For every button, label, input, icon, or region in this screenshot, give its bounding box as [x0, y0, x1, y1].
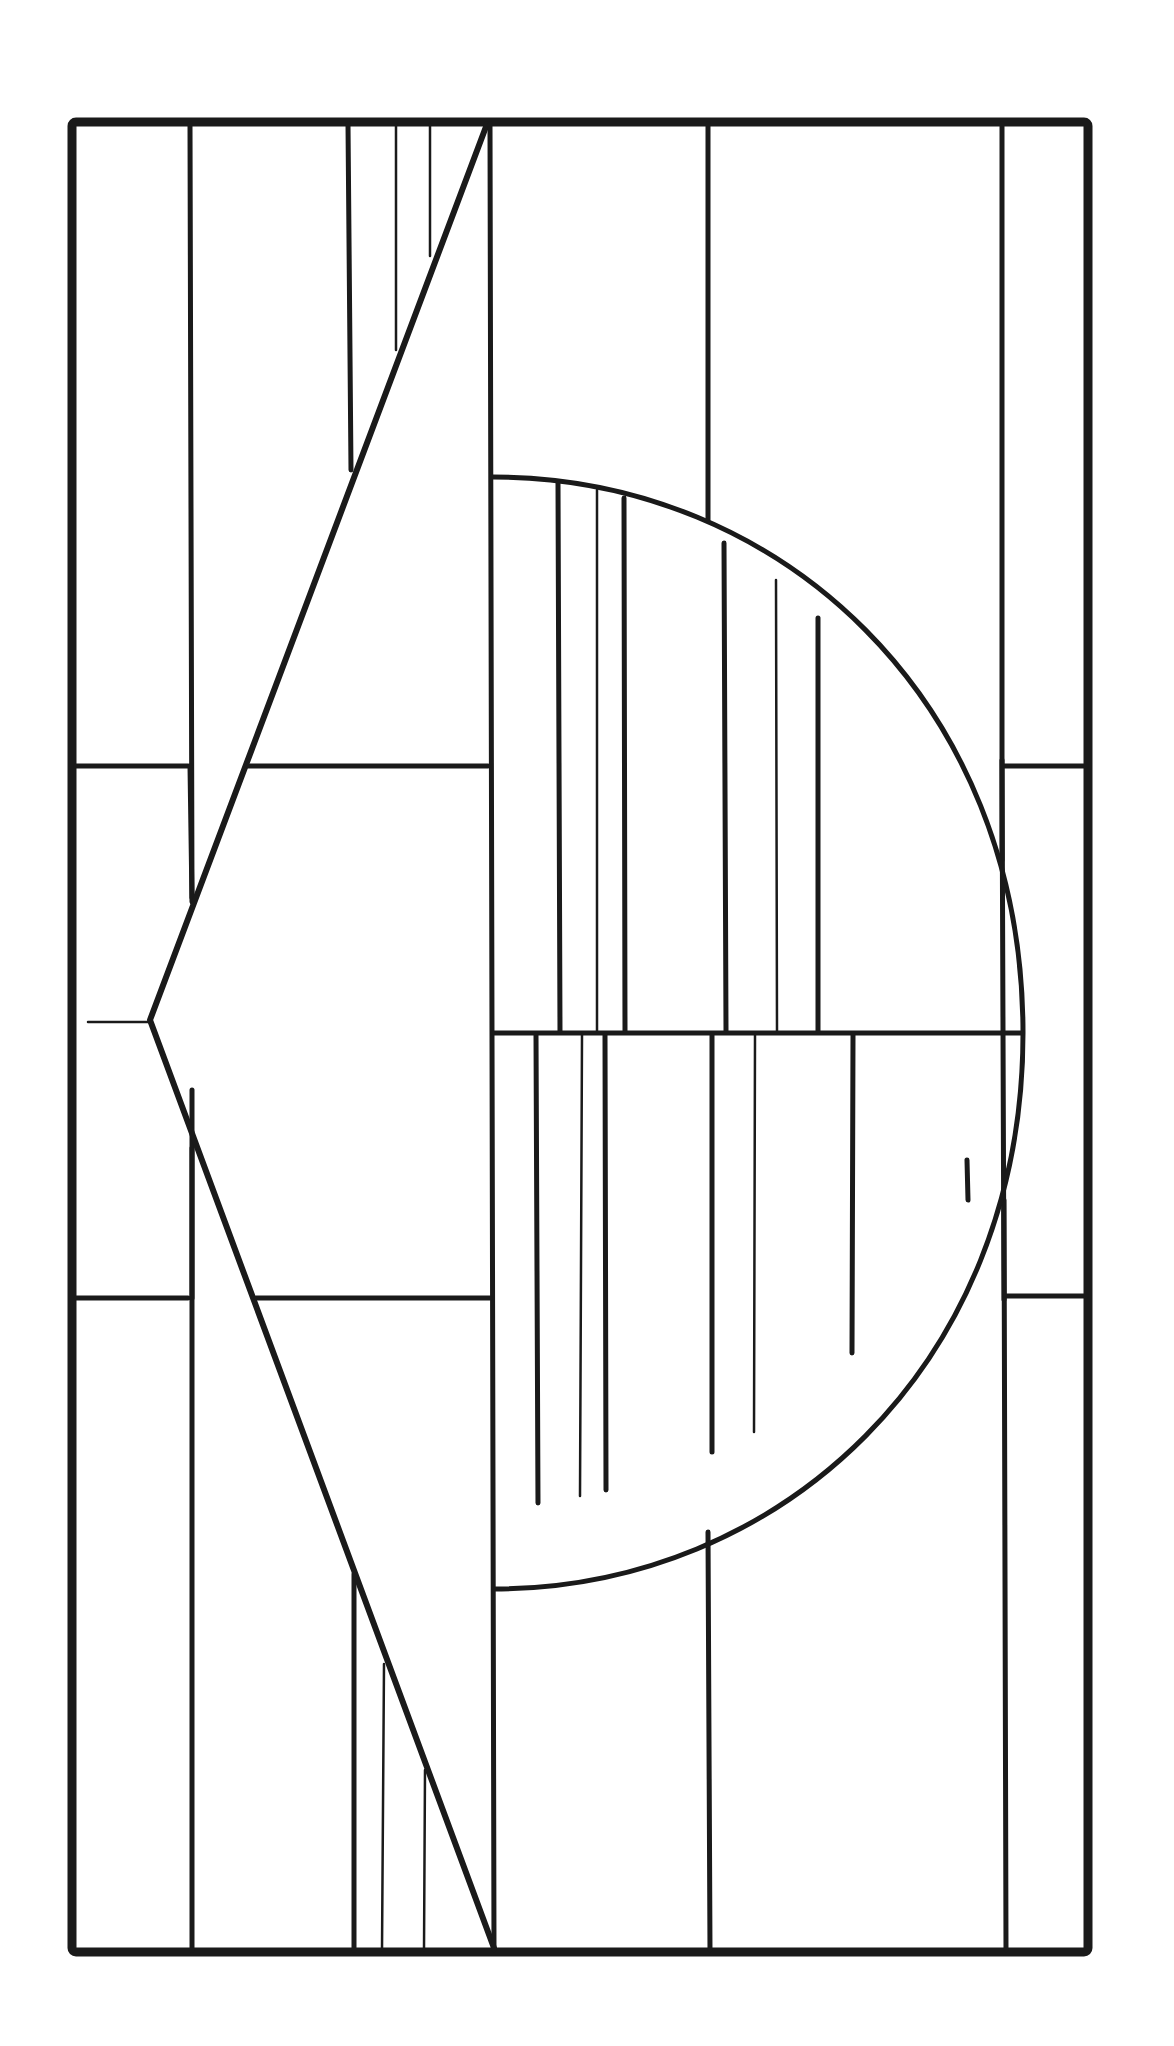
chevron-arrow — [150, 124, 494, 1948]
chevron-horizontal-bars — [248, 766, 490, 1298]
upper-thin-strips — [348, 124, 430, 470]
upper-semicircle-strips — [558, 483, 818, 1031]
stained-glass-diagram — [0, 0, 1174, 2046]
lower-semicircle-strips — [536, 1035, 968, 1503]
outer-frame — [72, 122, 1088, 1952]
left-column-dividers — [76, 124, 192, 1950]
right-column-dividers — [708, 124, 1086, 1950]
lower-thin-strips — [354, 1574, 425, 1950]
center-spine — [490, 124, 494, 1950]
